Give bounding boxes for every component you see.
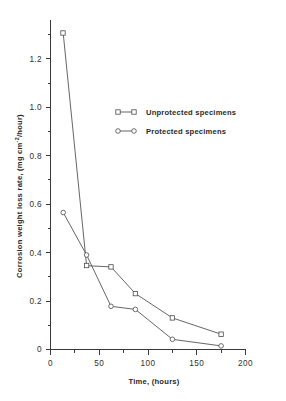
data-point-marker xyxy=(84,263,88,267)
legend-marker-square xyxy=(116,110,120,114)
data-point-marker xyxy=(219,332,223,336)
data-point-marker xyxy=(133,307,138,312)
y-axis-title-main: Corrosion weight loss rate, (mg cm xyxy=(15,142,24,278)
y-axis-ticks xyxy=(46,35,51,350)
y-tick-label-6: 1.2 xyxy=(29,55,42,64)
data-point-marker xyxy=(109,265,113,269)
data-point-marker xyxy=(61,210,66,215)
y-tick-label-2: 0.4 xyxy=(29,249,42,258)
data-point-marker xyxy=(170,337,175,342)
y-axis-title: Corrosion weight loss rate, (mg cm-2/hou… xyxy=(14,114,24,278)
series-unprotected-line xyxy=(63,33,221,334)
legend-marker-circle xyxy=(132,129,137,134)
data-point-marker xyxy=(109,304,114,309)
y-axis-title-tail: /hour) xyxy=(15,114,24,137)
legend-label-protected: Protected specimens xyxy=(146,127,226,136)
line-chart: 0 0.2 0.4 0.6 0.8 1.0 1.2 0 50 100 150 2… xyxy=(0,0,286,401)
legend-marker-square xyxy=(132,110,136,114)
data-point-marker xyxy=(133,291,137,295)
x-axis-ticks xyxy=(51,350,246,355)
axis-frame xyxy=(51,20,246,350)
legend-marker-circle xyxy=(116,129,121,134)
x-axis-title: Time, (hours) xyxy=(128,377,179,386)
data-point-marker xyxy=(61,31,65,35)
legend-item-unprotected-specimens: Unprotected specimens xyxy=(116,108,236,117)
x-tick-label-4: 200 xyxy=(238,359,253,368)
x-tick-label-1: 50 xyxy=(94,359,104,368)
y-tick-label-5: 1.0 xyxy=(29,103,42,112)
legend-item-protected-specimens: Protected specimens xyxy=(116,127,227,136)
chart-figure: 0 0.2 0.4 0.6 0.8 1.0 1.2 0 50 100 150 2… xyxy=(0,0,286,401)
x-tick-label-0: 0 xyxy=(48,359,53,368)
x-tick-label-3: 150 xyxy=(189,359,204,368)
series-protected-specimens xyxy=(61,210,224,348)
chart-legend: Unprotected specimens Protected specimen… xyxy=(116,108,237,136)
y-tick-labels: 0 0.2 0.4 0.6 0.8 1.0 1.2 xyxy=(29,55,42,355)
x-tick-labels: 0 50 100 150 200 xyxy=(48,359,253,368)
data-point-marker xyxy=(219,344,224,349)
legend-label-unprotected: Unprotected specimens xyxy=(146,108,236,117)
svg-text:Corrosion weight loss rate, (m: Corrosion weight loss rate, (mg cm-2/hou… xyxy=(14,114,24,278)
y-tick-label-4: 0.8 xyxy=(29,152,42,161)
data-point-marker xyxy=(84,253,89,258)
data-point-marker xyxy=(170,316,174,320)
y-tick-label-3: 0.6 xyxy=(29,200,42,209)
x-tick-label-2: 100 xyxy=(141,359,156,368)
y-tick-label-1: 0.2 xyxy=(29,297,42,306)
series-unprotected-specimens xyxy=(61,31,223,337)
y-tick-label-0: 0 xyxy=(37,345,42,354)
